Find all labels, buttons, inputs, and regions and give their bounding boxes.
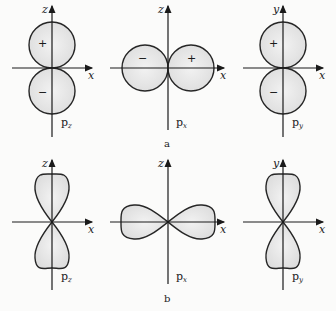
x-axis-label: x xyxy=(88,69,95,82)
plus-sign: + xyxy=(38,37,47,50)
x-axis-label: x xyxy=(220,69,227,82)
plus-sign: + xyxy=(269,37,278,50)
row-b-label: b xyxy=(164,293,170,304)
panel-b-pz: z x pz xyxy=(12,157,95,290)
y-axis-label: y xyxy=(272,3,280,16)
x-axis-label: x xyxy=(319,69,326,82)
orbital-label: py xyxy=(292,270,304,284)
x-axis-label: x xyxy=(319,223,326,236)
z-axis-label: z xyxy=(157,157,164,170)
panel-a-pz: z x + − pz xyxy=(12,3,95,137)
panel-b-py: y x py xyxy=(243,157,326,290)
orbital-label: pz xyxy=(61,270,72,284)
z-axis-label: z xyxy=(41,3,48,16)
panel-a-py: y x + − py xyxy=(243,3,326,137)
plus-sign: + xyxy=(187,52,196,65)
minus-sign: − xyxy=(269,86,278,99)
orbital-label: pz xyxy=(61,116,72,130)
row-a-label: a xyxy=(164,138,170,149)
minus-sign: − xyxy=(38,86,47,99)
z-axis-label: z xyxy=(157,3,164,16)
x-axis-label: x xyxy=(220,223,227,236)
panel-a-px: z x − + px xyxy=(110,3,227,130)
p-orbitals-figure: z x + − pz z x − + px y x + − py a z x xyxy=(0,0,336,311)
x-axis-label: x xyxy=(88,223,95,236)
orbital-label: px xyxy=(176,116,187,130)
panel-b-px: z x px xyxy=(110,157,227,284)
orbital-label: px xyxy=(176,270,187,284)
minus-sign: − xyxy=(138,52,147,65)
y-axis-label: y xyxy=(272,157,280,170)
orbital-label: py xyxy=(292,116,304,130)
z-axis-label: z xyxy=(41,157,48,170)
